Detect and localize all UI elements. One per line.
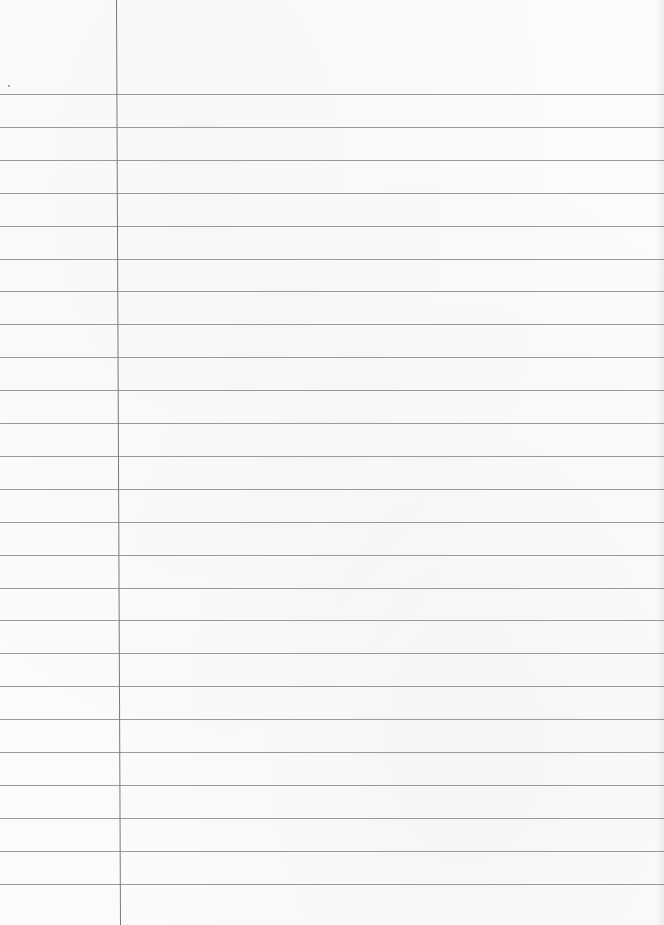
ruled-line xyxy=(0,456,664,457)
ruled-line xyxy=(0,522,664,523)
ruled-line xyxy=(0,357,664,358)
ruled-line xyxy=(0,785,664,786)
ruled-line xyxy=(0,193,664,194)
ruled-line xyxy=(0,390,664,391)
ruled-line xyxy=(0,588,664,589)
ruled-line xyxy=(0,291,664,292)
ruled-line xyxy=(0,686,664,687)
ruled-line xyxy=(0,884,664,885)
ruled-line xyxy=(0,324,664,325)
paper-speck xyxy=(8,85,10,87)
lined-paper-sheet xyxy=(0,0,664,925)
ruled-line xyxy=(0,752,664,753)
ruled-line xyxy=(0,423,664,424)
ruled-line xyxy=(0,555,664,556)
ruled-line xyxy=(0,226,664,227)
ruled-line xyxy=(0,620,664,621)
ruled-line xyxy=(0,719,664,720)
ruled-line xyxy=(0,127,664,128)
ruled-line xyxy=(0,259,664,260)
ruled-line xyxy=(0,94,664,95)
ruled-line xyxy=(0,653,664,654)
paper-edge-shadow xyxy=(656,0,664,925)
ruled-line xyxy=(0,818,664,819)
margin-line xyxy=(116,0,121,925)
ruled-line xyxy=(0,489,664,490)
ruled-line xyxy=(0,851,664,852)
ruled-line xyxy=(0,160,664,161)
